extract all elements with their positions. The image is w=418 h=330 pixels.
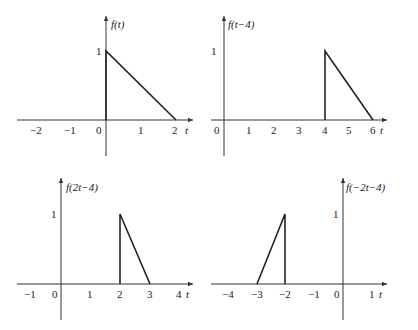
x-tick: −1 <box>24 288 36 300</box>
x-tick: 2 <box>172 124 178 136</box>
x-tick: −2 <box>30 124 42 136</box>
x-tick: 1 <box>369 288 375 300</box>
x-tick: −1 <box>64 124 76 136</box>
x-tick: 0 <box>334 288 340 300</box>
x-tick: −3 <box>251 288 263 300</box>
x-tick: −2 <box>279 288 291 300</box>
x-tick: 2 <box>271 124 277 136</box>
y-axis-label: f(t) <box>111 18 125 31</box>
plot-f-2t-minus-4: f(2t−4) 1 −1 0 1 2 3 4 t <box>17 178 193 320</box>
x-tick: 2 <box>117 288 123 300</box>
x-tick: 1 <box>138 124 144 136</box>
x-tick: 0 <box>214 124 220 136</box>
x-tick: 1 <box>87 288 93 300</box>
x-tick: 1 <box>246 124 252 136</box>
signal-curve <box>257 214 285 284</box>
signal-curve <box>325 51 373 120</box>
x-tick: 3 <box>147 288 153 300</box>
plot-f-neg-2t-minus-4: f(−2t−4) 1 −4 −3 −2 −1 0 1 t <box>211 178 387 320</box>
x-tick: 4 <box>176 288 182 300</box>
x-axis-label: t <box>379 288 383 300</box>
y-axis-label: f(2t−4) <box>66 181 98 194</box>
x-tick: 5 <box>346 124 352 136</box>
x-tick: 0 <box>52 288 58 300</box>
y-axis-label: f(t−4) <box>228 18 255 31</box>
x-axis-label: t <box>186 288 190 300</box>
y-tick-1: 1 <box>211 45 217 57</box>
signal-curve <box>106 51 176 120</box>
x-axis-label: t <box>380 124 384 136</box>
x-tick: 4 <box>322 124 328 136</box>
plot-f-t: f(t) 1 −2 −1 0 1 2 t <box>17 16 193 156</box>
signal-curve <box>120 214 150 284</box>
y-tick-1: 1 <box>51 208 57 220</box>
y-axis-label: f(−2t−4) <box>346 181 386 194</box>
x-tick: 6 <box>370 124 376 136</box>
x-tick: −4 <box>222 288 234 300</box>
x-tick: 0 <box>96 124 102 136</box>
plot-f-t-minus-4: f(t−4) 1 0 1 2 3 4 5 6 t <box>211 16 387 156</box>
x-axis-label: t <box>185 124 189 136</box>
x-tick: 3 <box>296 124 302 136</box>
y-tick-1: 1 <box>96 45 102 57</box>
x-tick: −1 <box>308 288 320 300</box>
y-tick-1: 1 <box>333 208 339 220</box>
signal-plots-figure: f(t) 1 −2 −1 0 1 2 t f(t−4) 1 0 1 2 3 4 … <box>0 0 418 330</box>
